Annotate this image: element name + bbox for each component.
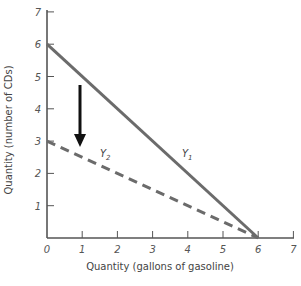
budget-line-chart: 01234567 1234567 Y1 Y2 Quantity (gallons… <box>0 0 301 286</box>
x-tick-label: 4 <box>185 244 191 255</box>
x-ticks: 01234567 <box>44 231 297 255</box>
label-y2: Y2 <box>100 148 111 162</box>
shift-arrow <box>74 85 86 147</box>
y-tick-label: 2 <box>35 168 41 179</box>
y-tick-label: 4 <box>35 104 41 115</box>
y-tick-label: 7 <box>35 7 42 18</box>
y-axis-label: Quantity (number of CDs) <box>3 65 14 194</box>
x-tick-label: 3 <box>149 244 155 255</box>
x-tick-label: 5 <box>220 244 226 255</box>
y-tick-label: 3 <box>35 136 41 147</box>
x-tick-label: 6 <box>255 244 261 255</box>
y-tick-label: 1 <box>35 201 41 212</box>
x-tick-label: 2 <box>114 244 120 255</box>
x-axis-label: Quantity (gallons of gasoline) <box>86 261 234 272</box>
x-tick-label: 1 <box>79 244 85 255</box>
y-ticks: 1234567 <box>35 7 54 212</box>
budget-line-y2 <box>47 141 258 238</box>
y-tick-label: 5 <box>35 72 41 83</box>
label-y1: Y1 <box>182 148 193 162</box>
x-tick-label: 7 <box>290 244 297 255</box>
x-tick-label: 0 <box>44 244 50 255</box>
y-tick-label: 6 <box>35 39 41 50</box>
